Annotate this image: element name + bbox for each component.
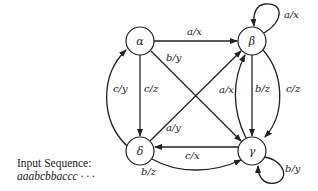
label-delta-alpha: c/y (113, 83, 128, 94)
label-beta-gamma-cz: c/z (286, 83, 301, 94)
label-gamma-beta: a/x (219, 84, 234, 95)
label-delta-beta: a/y (166, 122, 181, 133)
label-gamma-self: b/y (285, 163, 301, 174)
label-alpha-gamma: b/y (166, 52, 182, 63)
label-beta-gamma-bz: b/z (255, 83, 271, 94)
node-gamma: γ (238, 137, 266, 165)
caption-sequence: aaabcbbaccc · · · (17, 170, 95, 183)
label-alpha-beta: a/x (187, 26, 202, 37)
caption-title: Input Sequence: (17, 157, 95, 170)
edge-delta-alpha (107, 50, 127, 146)
svg-text:δ: δ (137, 145, 144, 158)
label-delta-gamma: b/z (141, 166, 157, 177)
node-delta: δ (126, 137, 154, 165)
node-beta: β (238, 27, 266, 55)
input-sequence-caption: Input Sequence: aaabcbbaccc · · · (17, 157, 95, 183)
label-alpha-delta: c/z (144, 83, 159, 94)
svg-text:γ: γ (249, 145, 256, 158)
label-gamma-delta: c/x (185, 150, 200, 161)
edge-gamma-beta (235, 55, 246, 138)
label-beta-self: a/x (284, 9, 299, 20)
svg-text:β: β (248, 35, 255, 48)
node-alpha: α (126, 27, 154, 55)
svg-text:α: α (136, 35, 144, 48)
